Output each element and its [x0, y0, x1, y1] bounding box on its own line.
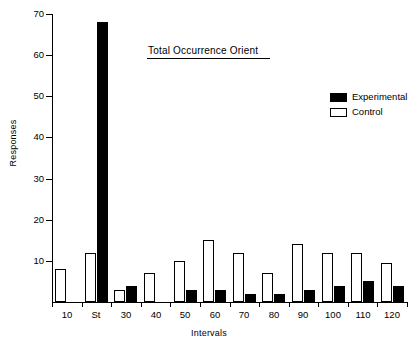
legend-label-control: Control	[352, 107, 383, 117]
bar-control-100	[322, 253, 333, 302]
bar-experimental-70	[245, 294, 256, 302]
x-tick-end	[407, 302, 408, 307]
bar-experimental-60	[215, 290, 226, 302]
bar-experimental-100	[334, 286, 345, 302]
y-tick-30	[46, 179, 52, 180]
y-tick-60	[46, 55, 52, 56]
y-tick-label-40: 40	[14, 132, 44, 142]
y-tick-50	[46, 96, 52, 97]
x-tick-80	[259, 302, 260, 307]
bar-control-90	[292, 244, 303, 302]
bar-experimental-St	[97, 22, 108, 302]
bar-control-60	[203, 240, 214, 302]
x-axis-title: Intervals	[0, 328, 418, 338]
bar-control-50	[174, 261, 185, 302]
legend-label-experimental: Experimental	[352, 92, 407, 102]
bar-control-40	[144, 273, 155, 302]
x-tick-10	[52, 302, 53, 307]
x-tick-120	[377, 302, 378, 307]
y-tick-label-10: 10	[14, 256, 44, 266]
bar-control-110	[351, 253, 362, 302]
filled-square-icon	[330, 93, 347, 102]
bar-control-120	[381, 263, 392, 302]
bar-experimental-90	[304, 290, 315, 302]
bar-control-30	[114, 290, 125, 302]
bar-experimental-120	[393, 286, 404, 302]
hollow-square-icon	[330, 108, 347, 117]
y-tick-label-20: 20	[14, 215, 44, 225]
x-tick-50	[170, 302, 171, 307]
chart-title-underline	[147, 58, 270, 59]
chart-title: Total Occurrence Orient	[148, 45, 258, 56]
y-tick-10	[46, 261, 52, 262]
x-tick-40	[141, 302, 142, 307]
x-tick-60	[200, 302, 201, 307]
y-tick-label-50: 50	[14, 91, 44, 101]
y-tick-label-30: 30	[14, 174, 44, 184]
x-tick-30	[111, 302, 112, 307]
x-tick-110	[348, 302, 349, 307]
bar-control-St	[85, 253, 96, 302]
bar-experimental-30	[126, 286, 137, 302]
y-axis-line	[52, 14, 53, 303]
y-tick-40	[46, 137, 52, 138]
bar-experimental-50	[186, 290, 197, 302]
legend-item-control: Control	[330, 105, 407, 119]
bar-chart-figure: Responses 70 60 50 40 30 20 10 Total Occ…	[0, 0, 418, 343]
x-tick-St	[82, 302, 83, 307]
bar-control-70	[233, 253, 244, 302]
legend-item-experimental: Experimental	[330, 90, 407, 104]
y-tick-label-60: 60	[14, 50, 44, 60]
bar-control-10	[55, 269, 66, 302]
bar-control-80	[262, 273, 273, 302]
bar-experimental-110	[363, 281, 374, 302]
y-tick-20	[46, 220, 52, 221]
x-tick-90	[289, 302, 290, 307]
y-tick-70	[46, 14, 52, 15]
bar-experimental-80	[274, 294, 285, 302]
x-tick-label-120: 120	[372, 310, 412, 320]
x-tick-70	[230, 302, 231, 307]
x-tick-100	[318, 302, 319, 307]
y-axis-title: Responses	[8, 103, 18, 183]
y-tick-label-70: 70	[14, 9, 44, 19]
chart-legend: Experimental Control	[330, 90, 407, 120]
